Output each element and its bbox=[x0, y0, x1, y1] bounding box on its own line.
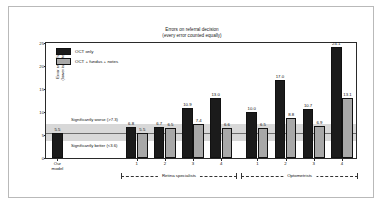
x-tick-label: 1 bbox=[136, 161, 138, 166]
bar-oct-only[interactable] bbox=[52, 133, 63, 158]
y-tick-mark bbox=[44, 89, 47, 90]
bar-oct-only[interactable] bbox=[331, 47, 342, 158]
bar-value-label: 17.0 bbox=[276, 74, 284, 79]
bar-value-label: 6.9 bbox=[316, 120, 322, 125]
x-tick-label: 4 bbox=[341, 161, 343, 166]
bar-value-label: 10.0 bbox=[248, 106, 256, 111]
figure-frame: Errors on referral decision (every error… bbox=[8, 6, 374, 198]
legend-swatch bbox=[56, 58, 71, 65]
x-tick-label: 4 bbox=[220, 161, 222, 166]
band-label-worse: Significantly worse (>7.3) bbox=[71, 117, 118, 122]
bar-value-label: 7.4 bbox=[196, 118, 202, 123]
bar-value-label: 6.8 bbox=[128, 121, 134, 126]
y-tick-mark bbox=[44, 112, 47, 113]
group-bracket-end-left bbox=[241, 173, 242, 179]
bar-oct-fundus-notes[interactable] bbox=[165, 128, 176, 158]
bar-value-label: 10.7 bbox=[304, 103, 312, 108]
bar-value-label: 6.7 bbox=[156, 121, 162, 126]
bar-oct-only[interactable] bbox=[126, 127, 137, 158]
bar-oct-fundus-notes[interactable] bbox=[342, 98, 353, 158]
bar-value-label: 5.5 bbox=[54, 127, 60, 132]
y-tick-mark bbox=[44, 43, 47, 44]
y-tick-mark bbox=[44, 66, 47, 67]
bar-value-label: 6.6 bbox=[224, 122, 230, 127]
group-label: Retina specialists bbox=[158, 173, 200, 178]
x-tick-label: 1 bbox=[256, 161, 258, 166]
legend-swatch bbox=[56, 48, 71, 55]
group-label: Optometrists bbox=[283, 173, 316, 178]
bar-value-label: 24.1 bbox=[332, 41, 340, 46]
group-bracket: Optometrists bbox=[241, 173, 358, 180]
bar-oct-fundus-notes[interactable] bbox=[286, 118, 297, 158]
y-tick-mark bbox=[44, 158, 47, 159]
group-bracket-end-left bbox=[121, 173, 122, 179]
bar-oct-fundus-notes[interactable] bbox=[193, 124, 204, 158]
bar-oct-only[interactable] bbox=[154, 127, 165, 158]
x-label-our-model: Ourmodel bbox=[52, 161, 64, 171]
legend-label: OCT only bbox=[75, 49, 93, 54]
x-tick-label: 3 bbox=[313, 161, 315, 166]
group-bracket-end-right bbox=[357, 173, 358, 179]
bar-value-label: 6.5 bbox=[168, 122, 174, 127]
legend-item[interactable]: OCT only bbox=[56, 48, 118, 55]
x-tick-label: 3 bbox=[192, 161, 194, 166]
x-tick-label: 2 bbox=[164, 161, 166, 166]
bar-value-label: 13.1 bbox=[343, 92, 351, 97]
chart-legend: OCT onlyOCT + fundus + notes bbox=[56, 48, 118, 68]
bar-value-label: 13.0 bbox=[211, 92, 219, 97]
bar-value-label: 8.8 bbox=[288, 112, 294, 117]
legend-item[interactable]: OCT + fundus + notes bbox=[56, 58, 118, 65]
plot-area: Error rate (%) (lower is better) 0510152… bbox=[45, 42, 357, 159]
bar-oct-fundus-notes[interactable] bbox=[222, 128, 233, 158]
bar-oct-only[interactable] bbox=[246, 112, 257, 158]
bar-value-label: 10.9 bbox=[183, 102, 191, 107]
bar-oct-fundus-notes[interactable] bbox=[137, 133, 148, 158]
bar-oct-only[interactable] bbox=[182, 108, 193, 158]
bar-oct-fundus-notes[interactable] bbox=[314, 126, 325, 158]
bar-oct-fundus-notes[interactable] bbox=[258, 128, 269, 158]
band-label-better: Significantly better (<3.6) bbox=[71, 143, 117, 148]
group-bracket: Retina specialists bbox=[121, 173, 238, 180]
legend-label: OCT + fundus + notes bbox=[75, 59, 118, 64]
our-model-line2: model bbox=[52, 166, 64, 171]
bar-oct-only[interactable] bbox=[275, 80, 286, 158]
x-tick-label: 2 bbox=[284, 161, 286, 166]
bar-value-label: 6.5 bbox=[260, 122, 266, 127]
bar-oct-only[interactable] bbox=[210, 98, 221, 158]
bar-value-label: 5.5 bbox=[139, 127, 145, 132]
bar-oct-only[interactable] bbox=[303, 109, 314, 158]
group-bracket-end-right bbox=[236, 173, 237, 179]
